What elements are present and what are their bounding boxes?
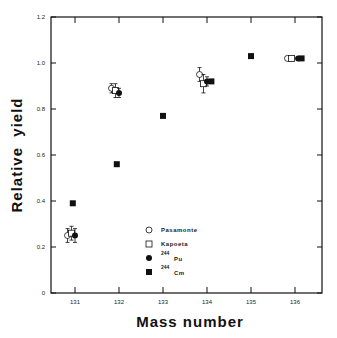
filled-square-marker: [299, 55, 305, 61]
filled-circle-marker: [146, 255, 152, 261]
filled-square-marker: [70, 200, 76, 206]
legend-label: Pu: [174, 256, 183, 262]
legend-label: Pasamonte: [161, 227, 198, 233]
legend-superscript: 244: [161, 250, 170, 256]
y-tick-label: 1.2: [37, 14, 46, 20]
y-tick-label: 1.0: [37, 60, 46, 66]
legend-item: 244Cm: [146, 264, 185, 276]
open-square-marker: [288, 55, 294, 61]
filled-square-marker: [208, 78, 214, 84]
legend-item: Pasamonte: [146, 227, 198, 233]
open-circle-marker: [146, 227, 152, 233]
open-square-marker: [146, 241, 152, 247]
filled-square-marker: [114, 161, 120, 167]
legend-label: Cm: [174, 270, 185, 276]
legend-item: 244Pu: [146, 250, 183, 262]
y-tick-label: 0.2: [37, 244, 46, 250]
filled-square-marker: [160, 113, 166, 119]
y-axis-title: Relative yield: [8, 97, 25, 212]
filled-circle-marker: [116, 90, 122, 96]
x-tick-label: 132: [114, 299, 125, 305]
x-tick-label: 136: [290, 299, 301, 305]
legend-label: Kapoeta: [161, 241, 188, 247]
legend-superscript: 244: [161, 264, 170, 270]
plot-frame: [51, 17, 322, 293]
series-244-pu: [72, 55, 301, 242]
y-tick-label: 0.4: [37, 198, 46, 204]
filled-square-marker: [248, 53, 254, 59]
filled-square-marker: [146, 269, 152, 275]
chart-figure: 13113213313413513600.20.40.60.81.01.2 Pa…: [0, 0, 337, 338]
legend: PasamonteKapoeta244Pu244Cm: [146, 227, 198, 276]
y-tick-label: 0: [42, 290, 46, 296]
data-points: [65, 53, 305, 242]
y-tick-label: 0.8: [37, 106, 46, 112]
filled-circle-marker: [72, 233, 78, 239]
y-tick-label: 0.6: [37, 152, 46, 158]
x-tick-label: 131: [70, 299, 81, 305]
series-kapoeta: [68, 55, 294, 240]
x-tick-label: 134: [202, 299, 213, 305]
x-axis-title: Mass number: [136, 313, 244, 330]
x-tick-label: 135: [246, 299, 257, 305]
plot-border: [51, 17, 322, 293]
series-244-cm: [70, 53, 305, 206]
x-tick-label: 133: [158, 299, 169, 305]
legend-item: Kapoeta: [146, 241, 188, 247]
series-pasamonte: [65, 55, 291, 242]
